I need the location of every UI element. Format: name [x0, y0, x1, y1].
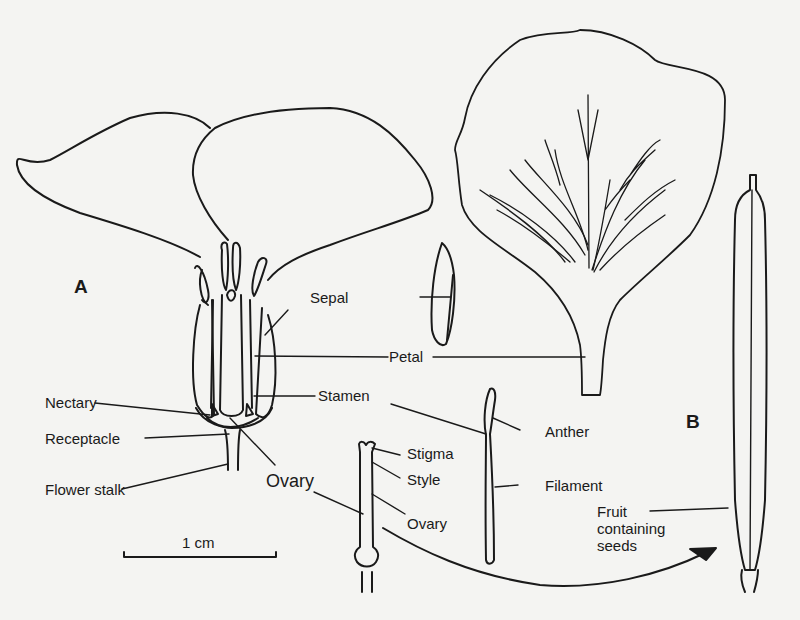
flower-petal-left	[17, 113, 210, 257]
detached-stamen	[485, 389, 496, 564]
label-ovary-main: Ovary	[266, 473, 314, 490]
label-sepal: Sepal	[310, 289, 348, 306]
label-ovary-detail: Ovary	[407, 515, 447, 532]
label-nectary: Nectary	[45, 394, 97, 411]
label-stigma: Stigma	[407, 445, 454, 462]
stamen-anther-center-right	[233, 243, 241, 290]
diagram-artwork	[0, 0, 800, 620]
label-filament: Filament	[545, 477, 603, 494]
stamen-anther-center-left	[221, 242, 228, 290]
label-stamen: Stamen	[318, 387, 370, 404]
label-style: Style	[407, 471, 440, 488]
stamen-anther-right	[252, 258, 266, 296]
label-petal: Petal	[389, 348, 423, 365]
label-receptacle: Receptacle	[45, 430, 120, 447]
panel-label-b: B	[686, 413, 700, 430]
fruit-stalk	[741, 570, 758, 592]
label-fruit-1: Fruit	[597, 503, 627, 520]
scale-bar	[124, 552, 276, 557]
ovary-outline	[220, 295, 243, 416]
label-fruit-2: containing	[597, 520, 665, 537]
label-flower-stalk: Flower stalk	[45, 481, 125, 498]
panel-label-a: A	[74, 278, 88, 295]
label-anther: Anther	[545, 423, 589, 440]
stigma-top	[227, 290, 235, 301]
nectary-left	[212, 404, 218, 416]
sepal-right	[256, 308, 275, 417]
scale-bar-label: 1 cm	[182, 534, 215, 551]
detached-pistil	[355, 442, 378, 567]
label-fruit-3: seeds	[597, 537, 637, 554]
detached-petal	[455, 30, 725, 395]
